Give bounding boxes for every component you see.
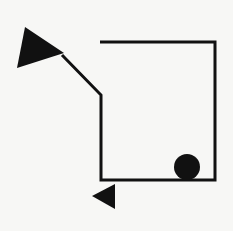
large-arrowhead-icon (17, 27, 64, 68)
diagram-canvas (0, 0, 233, 231)
dot-marker-icon (174, 154, 200, 180)
small-arrowhead-icon (92, 184, 115, 209)
